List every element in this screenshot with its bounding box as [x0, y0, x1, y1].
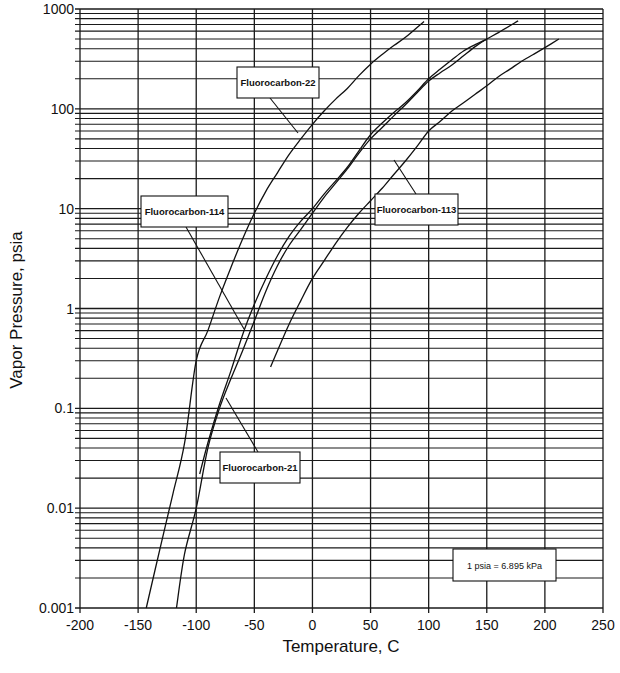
callout-text: Fluorocarbon-114 [145, 206, 225, 217]
y-tick-label: 0.001 [39, 600, 74, 616]
x-tick-label: 200 [533, 617, 557, 633]
y-tick-label: 1 [66, 301, 74, 317]
callout-pointer [270, 98, 298, 133]
x-tick-label: -150 [124, 617, 152, 633]
x-tick-label: 50 [363, 617, 379, 633]
callout-text: Fluorocarbon-21 [223, 462, 299, 473]
x-tick-label: -200 [66, 617, 94, 633]
callout-text: 1 psia = 6.895 kPa [467, 561, 542, 571]
x-tick-label: 100 [417, 617, 441, 633]
y-tick-label: 10 [58, 201, 74, 217]
x-tick-label: 250 [591, 617, 615, 633]
x-axis-label: Temperature, C [282, 637, 399, 656]
x-tick-label: 150 [475, 617, 499, 633]
callout-fluorocarbon-21: Fluorocarbon-21 [220, 398, 300, 483]
callout-fluorocarbon-22: Fluorocarbon-22 [237, 67, 319, 133]
callout-fluorocarbon-113: Fluorocarbon-113 [375, 160, 458, 225]
x-tick-label: -50 [244, 617, 264, 633]
vapor-pressure-chart: Fluorocarbon-22Fluorocarbon-114Fluorocar… [0, 0, 620, 673]
callout-1-psia-6-895-kpa: 1 psia = 6.895 kPa [453, 549, 556, 581]
callout-pointer [394, 160, 416, 194]
y-axis-ticks: 0.0010.010.11101001000 [39, 1, 74, 616]
x-axis-ticks: -200-150-100-50050100150200250 [66, 617, 615, 633]
x-tick-label: 0 [309, 617, 317, 633]
y-tick-label: 100 [51, 101, 75, 117]
callout-pointer [226, 398, 258, 452]
y-axis-label: Vapor Pressure, psia [7, 231, 26, 389]
callout-text: Fluorocarbon-22 [241, 77, 316, 88]
callout-text: Fluorocarbon-113 [377, 204, 457, 215]
y-tick-label: 0.01 [47, 500, 74, 516]
y-tick-label: 0.1 [55, 400, 75, 416]
y-tick-label: 1000 [43, 1, 74, 17]
x-tick-label: -100 [182, 617, 210, 633]
grid-lines [75, 9, 603, 613]
